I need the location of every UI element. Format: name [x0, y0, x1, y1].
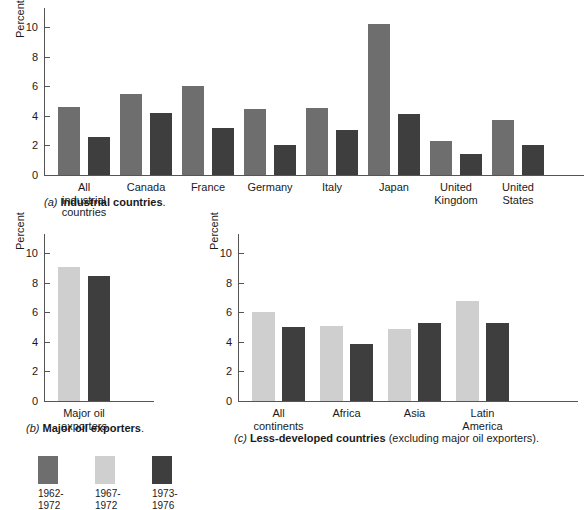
chart-a-y-tick: [44, 27, 50, 28]
chart-a-y-tick: [44, 57, 50, 58]
bar-a-3-1: [274, 145, 296, 175]
bar-c-0-1: [282, 327, 305, 401]
chart-c-y-tick-label: 8: [212, 278, 232, 289]
chart-a-caption-letter: (a): [44, 196, 57, 208]
bar-a-2-1: [212, 128, 234, 175]
bar-a-5-0: [368, 24, 390, 175]
bar-a-0-0: [58, 107, 80, 175]
chart-b-y-tick: [44, 283, 50, 284]
legend-label-0: 1962- 1972: [38, 488, 88, 510]
chart-b-caption-title: Major oil exporters: [43, 422, 141, 434]
bar-c-0-0: [252, 312, 275, 401]
chart-a-category-label: United States: [473, 181, 563, 206]
chart-a-y-tick-label: 8: [18, 52, 38, 63]
chart-a-y-tick-label: 0: [18, 170, 38, 181]
chart-b-y-axis-label: Percent: [14, 212, 26, 250]
bar-a-1-1: [150, 113, 172, 175]
chart-c-y-tick-label: 0: [212, 396, 232, 407]
chart-b-plot-area: 0246810Major oil exporters: [44, 226, 154, 402]
chart-c-caption-title: Less-developed countries: [250, 432, 386, 444]
chart-b-caption: (b) Major oil exporters.: [26, 422, 144, 435]
chart-b-caption-tail: .: [141, 422, 144, 434]
chart-c-y-tick: [238, 342, 244, 343]
chart-a-y-tick: [44, 175, 50, 176]
chart-a-caption-tail: .: [163, 196, 166, 208]
bar-a-3-0: [244, 109, 266, 175]
chart-c-y-tick: [238, 401, 244, 402]
chart-b-caption-letter: (b): [26, 422, 39, 434]
chart-c-caption-tail: (excluding major oil exporters).: [386, 432, 539, 444]
legend-swatch-0: [38, 456, 58, 484]
bar-a-0-1: [88, 137, 110, 175]
chart-a-y-tick: [44, 86, 50, 87]
chart-c-category-label: Latin America: [438, 407, 528, 432]
chart-c-y-tick: [238, 371, 244, 372]
bar-a-7-0: [492, 120, 514, 175]
chart-c-y-axis-label: Percent: [208, 212, 220, 250]
bar-a-4-0: [306, 108, 328, 175]
bar-c-2-0: [388, 329, 411, 401]
bar-a-2-0: [182, 86, 204, 175]
chart-c-plot-area: 0246810All continentsAfricaAsiaLatin Ame…: [238, 226, 578, 402]
chart-c-y-tick-label: 10: [212, 248, 232, 259]
chart-legend: 1962- 19721967- 19721973- 1976: [38, 456, 218, 510]
bar-a-1-0: [120, 94, 142, 175]
bar-b-0-0: [58, 267, 80, 401]
bar-a-6-1: [460, 154, 482, 175]
bar-c-3-0: [456, 301, 479, 401]
chart-b-y-tick-label: 10: [18, 248, 38, 259]
chart-b-y-tick-label: 2: [18, 366, 38, 377]
bar-c-3-1: [486, 323, 509, 401]
chart-c-y-tick-label: 6: [212, 307, 232, 318]
bar-c-1-0: [320, 326, 343, 401]
chart-a-plot-area: 0246810All industrial countriesCanadaFra…: [44, 0, 584, 176]
chart-c-y-tick-label: 2: [212, 366, 232, 377]
bar-a-7-1: [522, 145, 544, 175]
bar-a-6-0: [430, 141, 452, 175]
chart-a-y-tick-label: 2: [18, 140, 38, 151]
legend-label-2: 1973- 1976: [152, 488, 202, 510]
chart-a-y-tick: [44, 145, 50, 146]
chart-c-y-tick-label: 4: [212, 337, 232, 348]
chart-a-y-tick: [44, 116, 50, 117]
chart-c-caption: (c) Less-developed countries (excluding …: [234, 432, 539, 445]
chart-b-y-tick-label: 0: [18, 396, 38, 407]
legend-swatch-1: [95, 456, 115, 484]
chart-c-y-tick: [238, 253, 244, 254]
chart-a-x-axis: [44, 175, 584, 176]
chart-a-y-tick-label: 6: [18, 81, 38, 92]
bar-b-0-1: [88, 276, 110, 401]
chart-c-x-axis: [238, 401, 578, 402]
bar-c-2-1: [418, 323, 441, 401]
chart-b-y-tick: [44, 401, 50, 402]
chart-b-y-tick-label: 8: [18, 278, 38, 289]
bar-c-1-1: [350, 344, 373, 401]
bar-a-5-1: [398, 114, 420, 175]
chart-b-y-tick-label: 4: [18, 337, 38, 348]
legend-label-1: 1967- 1972: [95, 488, 145, 510]
chart-c-y-axis: [238, 234, 239, 401]
chart-b-y-tick: [44, 371, 50, 372]
chart-a-caption-title: Industrial countries: [61, 196, 163, 208]
chart-panel-less-developed-countries: Percent 0246810All continentsAfricaAsiaL…: [196, 226, 588, 451]
chart-a-caption: (a) Industrial countries.: [44, 196, 166, 209]
legend-swatch-2: [152, 456, 172, 484]
chart-b-y-tick: [44, 342, 50, 343]
chart-a-y-tick-label: 10: [18, 22, 38, 33]
chart-c-y-tick: [238, 283, 244, 284]
chart-panel-industrial-countries: Percent 0246810All industrial countriesC…: [0, 0, 588, 215]
chart-b-y-tick: [44, 253, 50, 254]
chart-a-y-tick-label: 4: [18, 111, 38, 122]
chart-c-caption-letter: (c): [234, 432, 247, 444]
chart-b-y-tick-label: 6: [18, 307, 38, 318]
chart-a-y-axis: [44, 8, 45, 175]
chart-c-y-tick: [238, 312, 244, 313]
chart-panel-major-oil-exporters: Percent 0246810Major oil exporters (b) M…: [0, 226, 180, 441]
chart-b-y-tick: [44, 312, 50, 313]
bar-a-4-1: [336, 130, 358, 175]
chart-b-y-axis: [44, 234, 45, 401]
chart-b-x-axis: [44, 401, 154, 402]
